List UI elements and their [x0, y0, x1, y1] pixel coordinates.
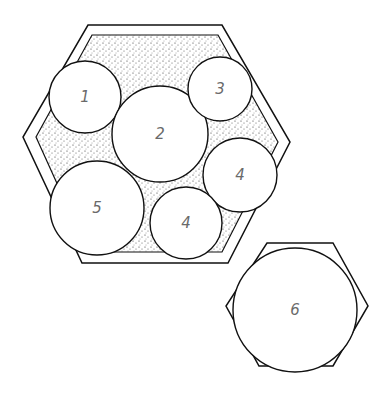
- circle-label: 4: [181, 214, 191, 232]
- circle-label: 5: [92, 199, 102, 217]
- circle-label: 2: [155, 125, 165, 143]
- small-hexagon: 6: [226, 243, 368, 372]
- circle-c1: 1: [49, 61, 121, 133]
- circle-c4b: 4: [150, 187, 222, 259]
- diagram-canvas: 123445 6: [0, 0, 390, 393]
- circle-label: 4: [235, 166, 245, 184]
- packing-diagram: 123445 6: [0, 0, 390, 393]
- circle-c5: 5: [50, 161, 144, 255]
- circle-label: 6: [290, 301, 300, 319]
- circle-label: 1: [80, 88, 90, 106]
- circle-label: 3: [215, 80, 225, 98]
- circle-c3: 3: [188, 57, 252, 121]
